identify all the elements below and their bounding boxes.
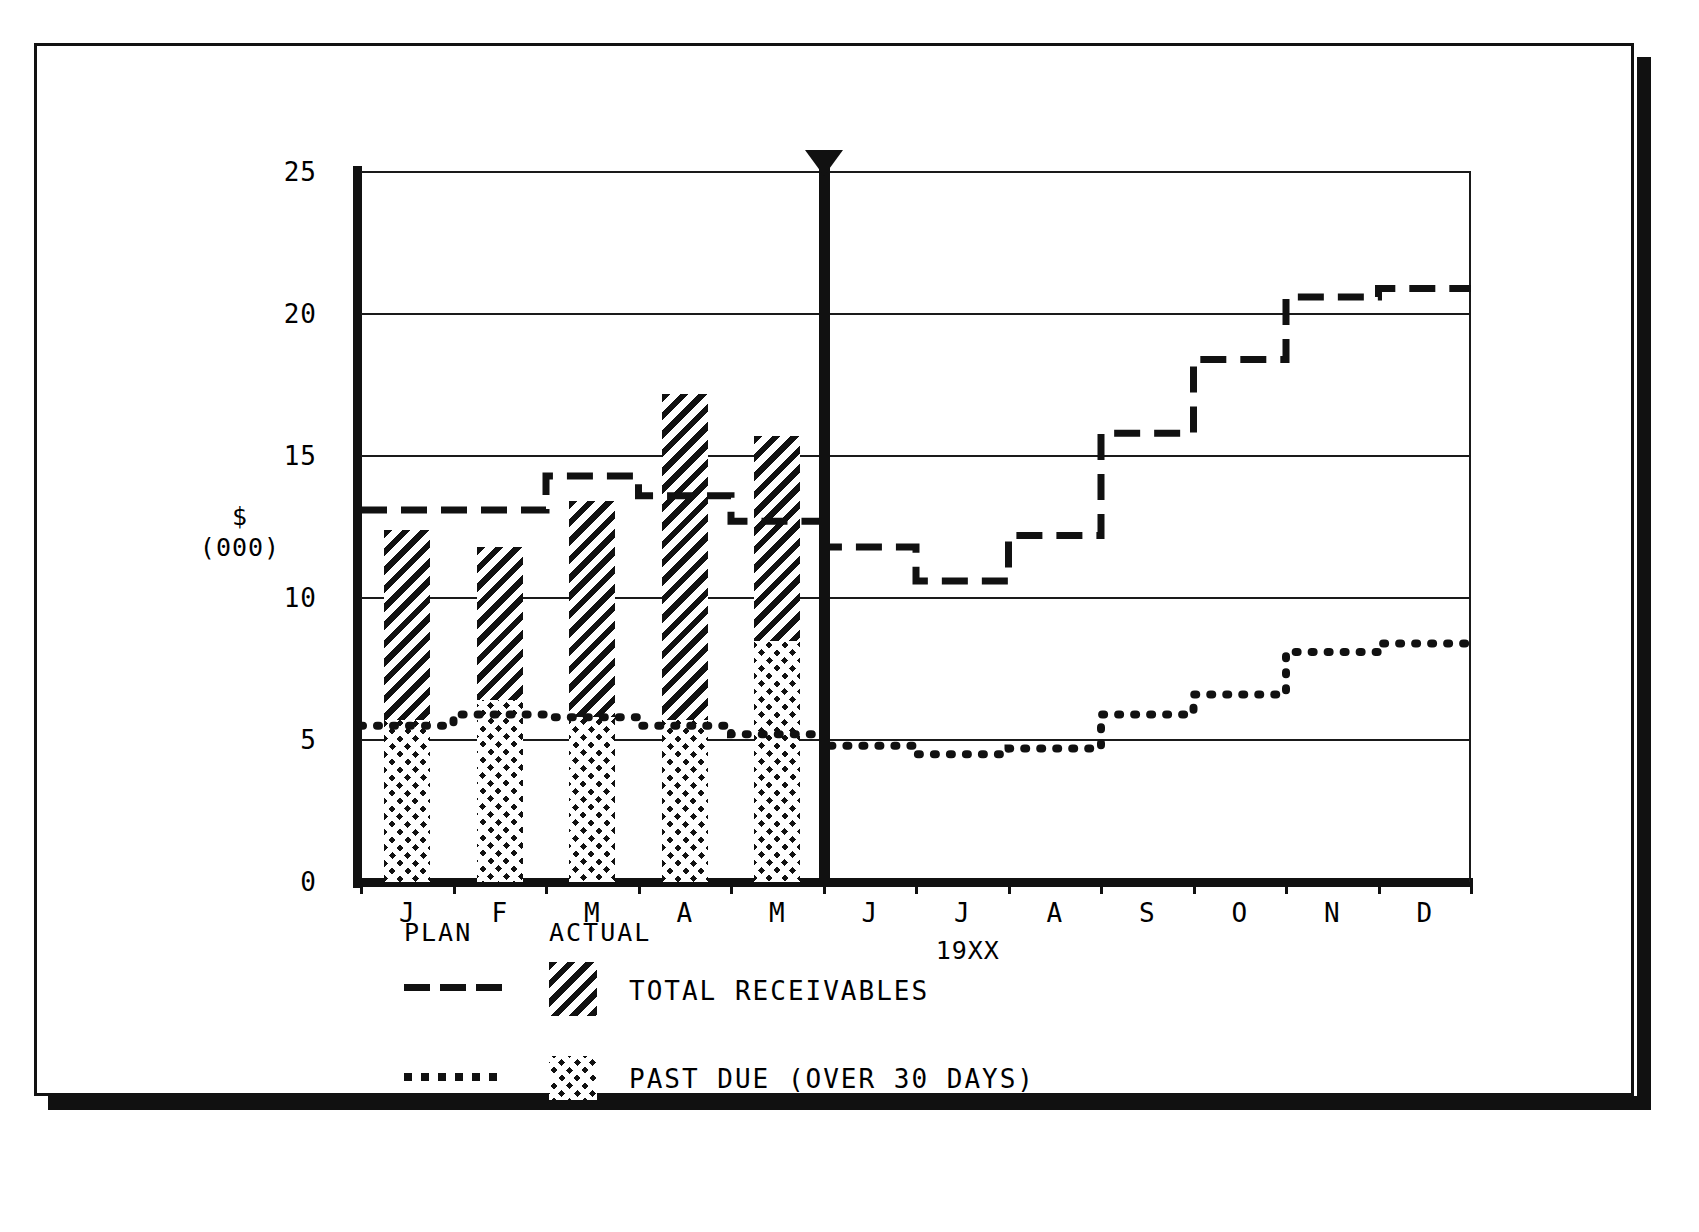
legend-plan-dashed-key	[404, 984, 504, 991]
x-tick-label-november: N	[1302, 898, 1362, 928]
y-tick-label-25: 25	[271, 159, 317, 185]
plan-step-lines	[361, 172, 1471, 882]
x-tick-4	[730, 878, 733, 894]
x-tick-7	[1008, 878, 1011, 894]
plan-total-receivables-line	[361, 288, 1471, 581]
legend-row-past-due: PAST DUE (OVER 30 DAYS)	[397, 1050, 1297, 1106]
x-tick-6	[915, 878, 918, 894]
x-tick-label-december: D	[1395, 898, 1455, 928]
x-tick-label-august: A	[1025, 898, 1085, 928]
y-axis-title-currency: $	[155, 501, 325, 532]
x-tick-label-july: J	[932, 898, 992, 928]
legend-header-plan: PLAN	[404, 918, 472, 947]
legend-header-actual: ACTUAL	[549, 918, 651, 947]
plan-past-due-line	[361, 643, 1471, 754]
y-tick-label-10: 10	[271, 585, 317, 611]
chart-page: $ (000) 0510152025 JFMAMJJASOND 19XX PLA…	[34, 43, 1634, 1096]
plot-area	[361, 172, 1471, 882]
x-tick-2	[545, 878, 548, 894]
y-axis-title-units: (000)	[155, 532, 325, 563]
y-tick-label-15: 15	[271, 443, 317, 469]
x-tick-8	[1100, 878, 1103, 894]
x-tick-5	[823, 878, 826, 894]
legend-label-past-due: PAST DUE (OVER 30 DAYS)	[629, 1064, 1035, 1094]
page-shadow-right	[1637, 57, 1651, 1110]
legend-actual-hatch-key	[549, 962, 597, 1016]
legend-row-total-receivables: TOTAL RECEIVABLES	[397, 962, 1297, 1018]
x-tick-label-october: O	[1210, 898, 1270, 928]
x-tick-label-february: F	[470, 898, 530, 928]
x-tick-0	[360, 878, 363, 894]
x-tick-label-may: M	[747, 898, 807, 928]
x-axis-title: 19XX	[888, 936, 1048, 965]
x-tick-1	[453, 878, 456, 894]
current-period-marker-line	[819, 158, 830, 887]
y-tick-label-5: 5	[271, 727, 317, 753]
x-tick-12	[1470, 878, 1473, 894]
x-tick-label-september: S	[1117, 898, 1177, 928]
legend-actual-crosshatch-key	[549, 1056, 597, 1100]
y-axis-title: $ (000)	[155, 501, 325, 563]
x-tick-10	[1285, 878, 1288, 894]
x-tick-label-april: A	[655, 898, 715, 928]
y-tick-label-0: 0	[271, 869, 317, 895]
current-period-arrow-icon	[805, 150, 843, 176]
y-tick-label-20: 20	[271, 301, 317, 327]
legend-plan-dotted-key	[404, 1073, 504, 1081]
x-tick-label-june: J	[840, 898, 900, 928]
x-tick-3	[638, 878, 641, 894]
legend-label-total-receivables: TOTAL RECEIVABLES	[629, 976, 929, 1006]
x-tick-9	[1193, 878, 1196, 894]
x-tick-11	[1378, 878, 1381, 894]
